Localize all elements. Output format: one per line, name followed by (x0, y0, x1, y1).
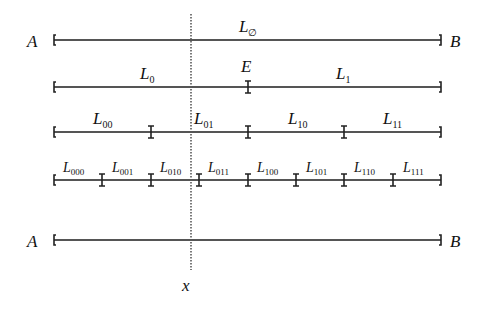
level-0: A B L∅ (26, 17, 461, 51)
subdivision-diagram: A B L∅ E L0 L1 L00 L01 L10 L11 (0, 0, 484, 311)
segment-label-10: L10 (287, 109, 307, 130)
segment-label-1: L1 (335, 64, 350, 85)
level-3: L000 L001 L010 L011 L100 L101 L110 L111 (54, 160, 441, 186)
segment-label-11: L11 (382, 109, 402, 130)
endpoint-a-bottom: A (26, 232, 38, 251)
segment-label-0: L0 (139, 64, 154, 85)
level-1: E L0 L1 (54, 57, 441, 93)
level-2: L00 L01 L10 L11 (54, 109, 441, 138)
endpoint-a-top: A (26, 32, 38, 51)
point-label-x: x (181, 276, 190, 295)
midpoint-label-e: E (240, 57, 252, 76)
level-bottom: A B (26, 232, 461, 251)
segment-label-111: L111 (402, 160, 424, 177)
segment-label-110: L110 (353, 160, 375, 177)
segment-label-010: L010 (159, 160, 182, 177)
segment-label-001: L001 (111, 160, 133, 177)
segment-label-011: L011 (207, 160, 229, 177)
segment-label-101: L101 (305, 160, 327, 177)
segment-label-01: L01 (193, 109, 213, 130)
segment-label-empty: L∅ (238, 17, 257, 38)
endpoint-b-top: B (450, 32, 461, 51)
segment-label-00: L00 (92, 109, 112, 130)
segment-label-000: L000 (62, 160, 85, 177)
segment-label-100: L100 (256, 160, 279, 177)
endpoint-b-bottom: B (450, 232, 461, 251)
